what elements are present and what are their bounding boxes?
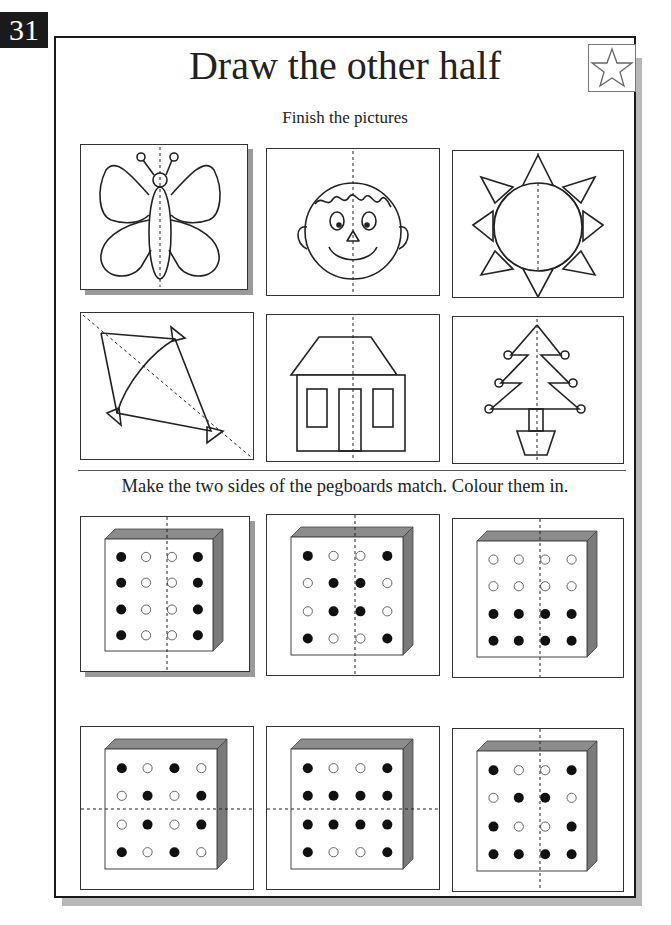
face-drawing — [267, 149, 439, 295]
kite-drawing — [81, 313, 253, 459]
pegboard-drawing — [267, 515, 439, 675]
pegboard-card-6[interactable] — [452, 728, 624, 892]
butterfly-drawing — [81, 145, 247, 289]
picture-card-christmas-tree[interactable] — [452, 316, 624, 464]
picture-card-face[interactable] — [266, 148, 440, 296]
pegboard-drawing — [81, 727, 253, 889]
picture-card-kite[interactable] — [80, 312, 254, 460]
sun-drawing — [453, 151, 623, 297]
picture-card-sun[interactable] — [452, 150, 624, 298]
house-drawing — [267, 315, 439, 461]
page-title: Draw the other half — [56, 42, 634, 89]
pegboard-card-5[interactable] — [266, 726, 440, 890]
pegboard-drawing — [81, 517, 249, 671]
section2-instruction: Make the two sides of the pegboards matc… — [56, 476, 634, 497]
section1-instruction: Finish the pictures — [56, 108, 634, 128]
pegboard-card-3[interactable] — [452, 518, 624, 678]
pegboard-drawing — [453, 519, 623, 677]
worksheet-page: Draw the other half Finish the pictures — [54, 36, 636, 898]
section-divider — [78, 470, 626, 471]
picture-card-house[interactable] — [266, 314, 440, 462]
pegboard-card-1[interactable] — [80, 516, 250, 672]
christmas-tree-drawing — [453, 317, 623, 463]
pegboard-card-2[interactable] — [266, 514, 440, 676]
star-icon — [588, 44, 636, 92]
picture-card-butterfly[interactable] — [80, 144, 248, 290]
pegboard-drawing — [453, 729, 623, 891]
pegboard-card-4[interactable] — [80, 726, 254, 890]
page-number-badge: 31 — [0, 12, 48, 48]
pegboard-drawing — [267, 727, 439, 889]
